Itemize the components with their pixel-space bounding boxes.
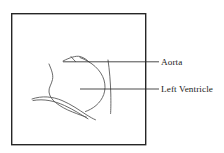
heart-diagram-svg	[0, 0, 224, 153]
label-aorta: Aorta	[161, 57, 182, 67]
figure-root: Aorta Left Ventricle	[0, 0, 224, 153]
label-left-ventricle: Left Ventricle	[161, 84, 213, 94]
diagram-frame	[12, 14, 146, 145]
